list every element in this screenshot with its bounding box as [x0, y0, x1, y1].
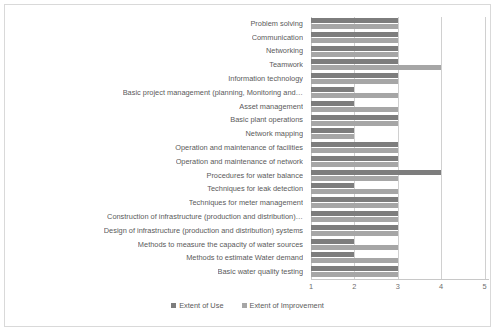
bar-row [311, 238, 489, 252]
bar-use [311, 183, 354, 188]
category-label: Operation and maintenance of facilities [175, 143, 303, 152]
bar-improvement [311, 231, 398, 236]
category-label: Basic water quality testing [218, 267, 303, 276]
category-label: Construction of infrastructure (producti… [107, 212, 303, 221]
category-label: Operation and maintenance of network [176, 157, 303, 166]
bar-use [311, 115, 398, 120]
plot-area [311, 17, 489, 279]
bar-improvement [311, 38, 398, 43]
bar-improvement [311, 121, 398, 126]
bar-row [311, 196, 489, 210]
bar-row [311, 31, 489, 45]
chart-frame: Problem solvingCommunicationNetworkingTe… [4, 4, 491, 327]
category-label: Asset management [239, 102, 303, 111]
category-label: Design of infrastructure (production and… [104, 226, 303, 235]
chart-legend: Extent of UseExtent of Improvement [5, 301, 490, 310]
bar-improvement [311, 52, 398, 57]
category-label: Information technology [228, 74, 303, 83]
bar-use [311, 239, 354, 244]
x-tick-label-2: 2 [352, 282, 356, 291]
bar-use [311, 59, 398, 64]
category-label: Procedures for water balance [206, 171, 303, 180]
bar-row [311, 182, 489, 196]
bar-use [311, 252, 354, 257]
bar-row [311, 155, 489, 169]
bar-row [311, 86, 489, 100]
bar-improvement [311, 203, 398, 208]
category-label: Basic plant operations [230, 115, 303, 124]
bar-row [311, 169, 489, 183]
bar-improvement [311, 272, 398, 277]
x-tick-label-5: 5 [482, 282, 486, 291]
bar-improvement [311, 93, 398, 98]
category-label: Network mapping [245, 129, 303, 138]
bar-use [311, 225, 398, 230]
x-tick-label-4: 4 [439, 282, 443, 291]
bar-use [311, 32, 398, 37]
bar-use [311, 46, 398, 51]
bar-use [311, 87, 354, 92]
category-label: Problem solving [250, 19, 303, 28]
bar-row [311, 210, 489, 224]
legend-item[interactable]: Extent of Use [171, 301, 223, 310]
bar-row [311, 141, 489, 155]
category-label: Techniques for leak detection [207, 184, 303, 193]
bar-improvement [311, 162, 398, 167]
legend-label: Extent of Use [179, 301, 223, 310]
legend-item[interactable]: Extent of Improvement [242, 301, 324, 310]
bar-row [311, 58, 489, 72]
x-tick-label-1: 1 [309, 282, 313, 291]
bar-rows [311, 17, 489, 279]
x-axis-line [311, 279, 489, 280]
category-label: Techniques for meter management [189, 198, 303, 207]
bar-row [311, 224, 489, 238]
bar-row [311, 72, 489, 86]
legend-label: Extent of Improvement [250, 301, 324, 310]
bar-row [311, 17, 489, 31]
category-label: Basic project management (planning, Moni… [123, 88, 303, 97]
bar-improvement [311, 258, 398, 263]
bar-use [311, 73, 398, 78]
bar-improvement [311, 65, 441, 70]
bar-improvement [311, 148, 398, 153]
category-label: Networking [266, 46, 303, 55]
x-tick-label-3: 3 [396, 282, 400, 291]
bar-use [311, 128, 354, 133]
bar-row [311, 127, 489, 141]
bar-improvement [311, 176, 398, 181]
category-label: Communication [252, 33, 303, 42]
category-label: Methods to measure the capacity of water… [138, 240, 303, 249]
bar-use [311, 156, 398, 161]
category-axis-labels: Problem solvingCommunicationNetworkingTe… [35, 17, 307, 279]
bar-row [311, 45, 489, 59]
bar-use [311, 142, 398, 147]
bar-row [311, 114, 489, 128]
legend-swatch-icon [171, 303, 176, 308]
bar-use [311, 101, 354, 106]
bar-improvement [311, 24, 398, 29]
bar-use [311, 170, 441, 175]
bar-use [311, 18, 398, 23]
bar-use [311, 197, 398, 202]
bar-improvement [311, 217, 398, 222]
category-label: Methods to estimate Water demand [186, 253, 303, 262]
x-axis-tick-labels: 12345 [311, 282, 489, 296]
bar-improvement [311, 134, 354, 139]
legend-swatch-icon [242, 303, 247, 308]
bar-improvement [311, 107, 398, 112]
bar-use [311, 266, 398, 271]
bar-row [311, 265, 489, 279]
bar-row [311, 100, 489, 114]
bar-improvement [311, 245, 398, 250]
category-label: Teamwork [269, 60, 303, 69]
bar-improvement [311, 189, 398, 194]
bar-improvement [311, 79, 398, 84]
bar-row [311, 251, 489, 265]
bar-use [311, 211, 398, 216]
